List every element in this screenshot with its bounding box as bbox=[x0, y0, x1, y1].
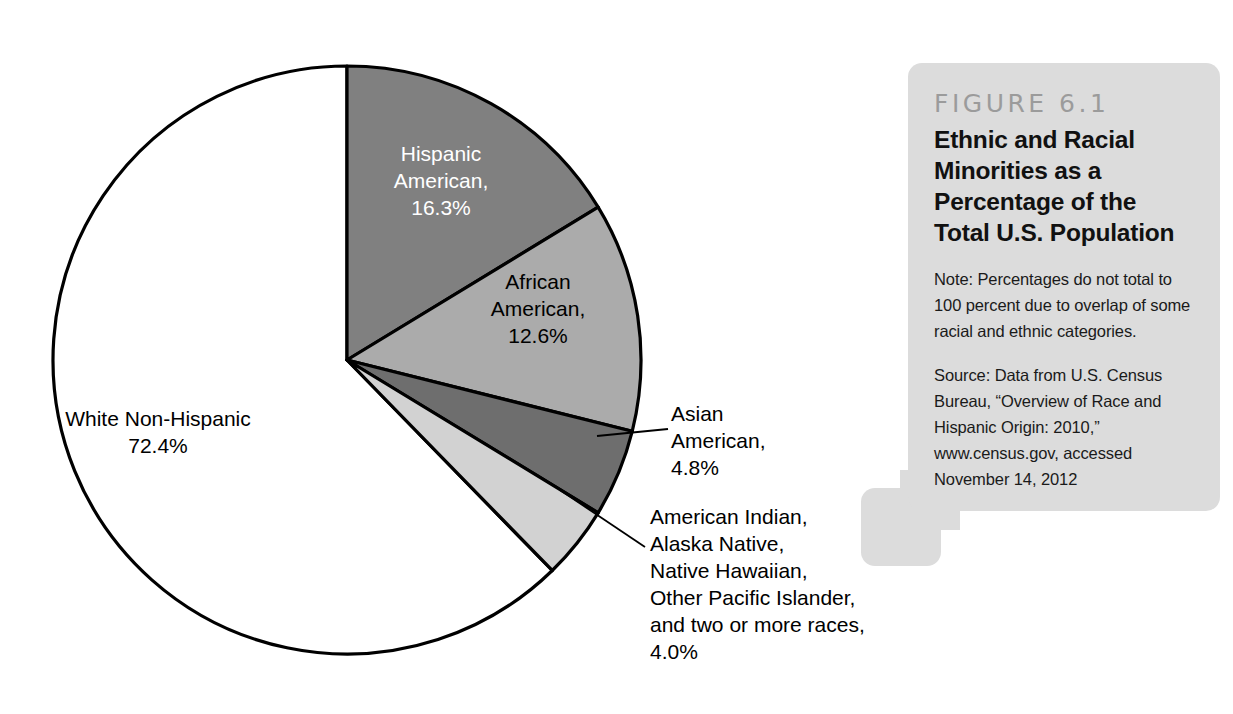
figure-source: Source: Data from U.S. Census Bureau, “O… bbox=[934, 362, 1194, 492]
pie-chart-figure: Hispanic American, 16.3% African America… bbox=[0, 0, 900, 714]
pie-label-hispanic-american: Hispanic American, 16.3% bbox=[356, 140, 526, 221]
figure-caption-box: FIGURE 6.1 Ethnic and Racial Minorities … bbox=[908, 63, 1220, 511]
pie-label-african-american: African American, 12.6% bbox=[452, 268, 624, 349]
figure-note: Note: Percentages do not total to 100 pe… bbox=[934, 266, 1194, 344]
figure-title: Ethnic and Racial Minorities as a Percen… bbox=[934, 124, 1194, 248]
pie-label-asian-american: Asian American, 4.8% bbox=[671, 400, 851, 481]
figure-number-label: FIGURE 6.1 bbox=[934, 89, 1194, 118]
pie-label-white-non-hispanic: White Non-Hispanic 72.4% bbox=[28, 405, 288, 459]
